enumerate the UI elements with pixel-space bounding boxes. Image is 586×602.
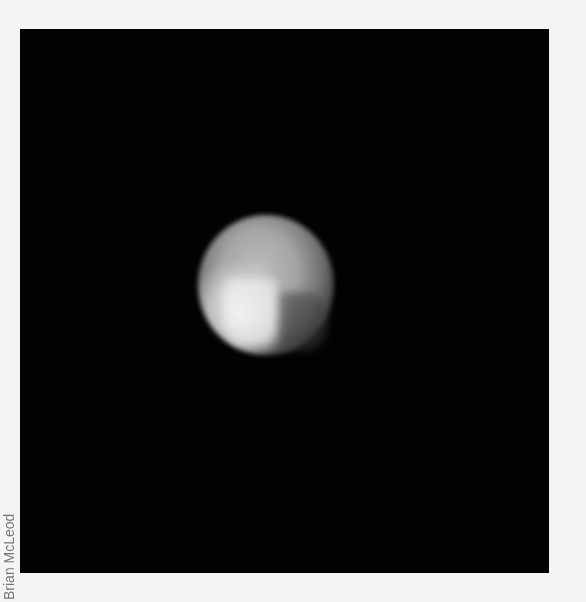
bright-region [224,279,276,345]
dark-region [280,293,328,351]
photo-credit: Brian McLeod [0,490,18,600]
telescope-image-frame [20,29,549,573]
